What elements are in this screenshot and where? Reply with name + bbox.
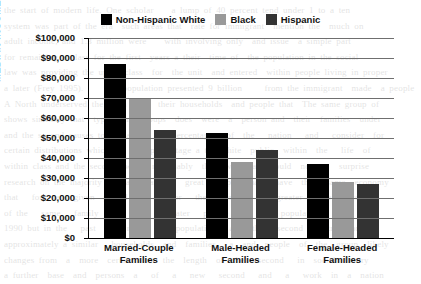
x-axis-category-label-line: Families xyxy=(211,254,270,266)
bar xyxy=(357,184,379,238)
y-axis-tick-label: $20,000 xyxy=(0,193,82,203)
bar xyxy=(332,182,354,238)
gridline xyxy=(89,118,394,119)
legend-swatch-black xyxy=(215,14,226,25)
legend-label-non-hispanic-white: Non-Hispanic White xyxy=(116,14,206,25)
legend-entry-non-hispanic-white: Non-Hispanic White xyxy=(101,14,206,25)
y-axis-tick xyxy=(84,38,89,39)
y-axis-tick-label: $90,000 xyxy=(0,53,82,63)
gridline xyxy=(89,78,394,79)
gridline xyxy=(89,98,394,99)
legend-label-hispanic: Hispanic xyxy=(281,14,321,25)
gridline xyxy=(89,58,394,59)
gridline xyxy=(89,38,394,39)
x-axis-category-label: Male-HeadedFamilies xyxy=(211,242,270,266)
x-axis-category-labels: Married-CoupleFamiliesMale-HeadedFamilie… xyxy=(88,242,393,282)
legend-entry-black: Black xyxy=(215,14,255,25)
bar xyxy=(231,162,253,238)
y-axis-tick xyxy=(84,218,89,219)
bar xyxy=(206,133,228,238)
y-axis-tick-label: $30,000 xyxy=(0,173,82,183)
x-axis-category-label-line: Families xyxy=(104,254,174,266)
y-axis-tick xyxy=(84,98,89,99)
y-axis-tick xyxy=(84,198,89,199)
x-axis-category-label-line: Married-Couple xyxy=(104,242,174,254)
gridline xyxy=(89,158,394,159)
gridline xyxy=(89,218,394,219)
bar xyxy=(256,150,278,238)
x-axis-category-label: Female-HeadedFamilies xyxy=(307,242,377,266)
x-axis-category-label-line: Families xyxy=(307,254,377,266)
y-axis-tick-label: $60,000 xyxy=(0,113,82,123)
y-axis-tick xyxy=(84,178,89,179)
y-axis-tick-labels: $0$10,000$20,000$30,000$40,000$50,000$60… xyxy=(0,0,82,284)
legend-label-black: Black xyxy=(230,14,255,25)
bar xyxy=(154,130,176,238)
legend-swatch-non-hispanic-white xyxy=(101,14,112,25)
y-axis-tick xyxy=(84,238,89,239)
bar xyxy=(104,64,126,238)
y-axis-tick-label: $50,000 xyxy=(0,133,82,143)
y-axis-tick xyxy=(84,138,89,139)
bar-chart: Non-Hispanic White Black Hispanic MEDIAN… xyxy=(0,0,421,284)
y-axis-tick-label: $70,000 xyxy=(0,93,82,103)
x-axis-category-label-line: Male-Headed xyxy=(211,242,270,254)
y-axis-tick-label: $100,000 xyxy=(0,33,82,43)
bar xyxy=(307,164,329,238)
y-axis-tick-label: $0 xyxy=(0,233,82,243)
gridline xyxy=(89,178,394,179)
legend-entry-hispanic: Hispanic xyxy=(266,14,321,25)
y-axis-tick-label: $40,000 xyxy=(0,153,82,163)
y-axis-tick xyxy=(84,58,89,59)
gridline xyxy=(89,138,394,139)
y-axis-tick-label: $10,000 xyxy=(0,213,82,223)
y-axis-tick xyxy=(84,158,89,159)
y-axis-tick-label: $80,000 xyxy=(0,73,82,83)
y-axis-tick xyxy=(84,118,89,119)
gridline xyxy=(89,198,394,199)
x-axis-category-label: Married-CoupleFamilies xyxy=(104,242,174,266)
bar xyxy=(129,98,151,238)
y-axis-tick xyxy=(84,78,89,79)
x-axis-category-label-line: Female-Headed xyxy=(307,242,377,254)
legend-swatch-hispanic xyxy=(266,14,277,25)
plot-area xyxy=(88,38,394,239)
